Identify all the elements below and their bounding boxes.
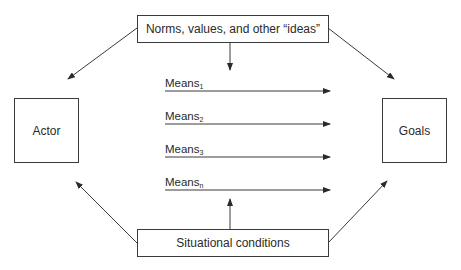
goals-box: Goals <box>382 98 447 163</box>
norms-values-ideas-box: Norms, values, and other “ideas” <box>137 15 329 43</box>
means-1-label: Means1 <box>165 77 203 93</box>
actor-label: Actor <box>32 124 60 138</box>
norms-values-ideas-label: Norms, values, and other “ideas” <box>146 22 320 36</box>
goals-label: Goals <box>399 124 430 138</box>
arrow-ideas-to-goals <box>328 28 394 79</box>
arrow-ideas-to-actor <box>68 28 137 79</box>
situational-conditions-label: Situational conditions <box>176 236 289 250</box>
arrow-conditions-to-actor <box>76 182 137 243</box>
arrow-conditions-to-goals <box>328 181 387 243</box>
actor-box: Actor <box>14 98 79 163</box>
means-3-label: Means3 <box>165 143 203 159</box>
means-n-label: Meansn <box>165 176 203 192</box>
means-1-subscript: 1 <box>200 83 204 90</box>
means-3-subscript: 3 <box>200 149 204 156</box>
means-n-subscript: n <box>200 182 204 189</box>
situational-conditions-box: Situational conditions <box>137 229 329 257</box>
means-2-label: Means2 <box>165 110 203 126</box>
means-2-subscript: 2 <box>200 116 204 123</box>
